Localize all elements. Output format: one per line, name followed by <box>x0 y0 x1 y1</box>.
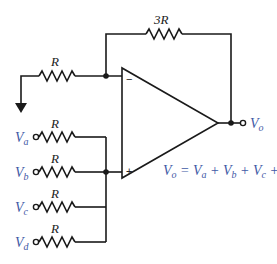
svg-text:R: R <box>50 186 59 201</box>
svg-text:R: R <box>50 221 59 236</box>
output-label: Vo <box>250 116 264 133</box>
output-node-dot <box>228 120 234 126</box>
ground-resistor <box>39 71 75 81</box>
input-b: R Vb <box>15 151 106 182</box>
svg-text:Vc: Vc <box>15 200 29 217</box>
inverting-sign: − <box>126 73 132 85</box>
input-c: R Vc <box>15 186 106 217</box>
ground-resistor-label: R <box>50 54 59 69</box>
noninverting-sign: + <box>126 165 132 177</box>
feedback-resistor-label: 3R <box>153 12 169 27</box>
svg-text:Va: Va <box>15 130 29 147</box>
output-equation: Vo = Va + Vb + Vc + Vd <box>163 163 277 180</box>
output: Vo <box>218 116 264 133</box>
circuit-diagram: 3R R − + Vo R Va <box>0 0 277 264</box>
input-d: R Vd <box>15 221 106 252</box>
feedback-resistor <box>146 29 182 39</box>
ground-arrow-icon <box>15 103 27 113</box>
svg-text:Vd: Vd <box>15 235 30 252</box>
svg-text:R: R <box>50 151 59 166</box>
opamp: − + <box>122 68 218 178</box>
svg-text:R: R <box>50 116 59 131</box>
input-bus <box>103 137 122 242</box>
inverting-node-dot <box>103 73 109 79</box>
input-a: R Va <box>15 116 106 147</box>
svg-text:Vb: Vb <box>15 165 29 182</box>
output-terminal <box>240 120 245 125</box>
